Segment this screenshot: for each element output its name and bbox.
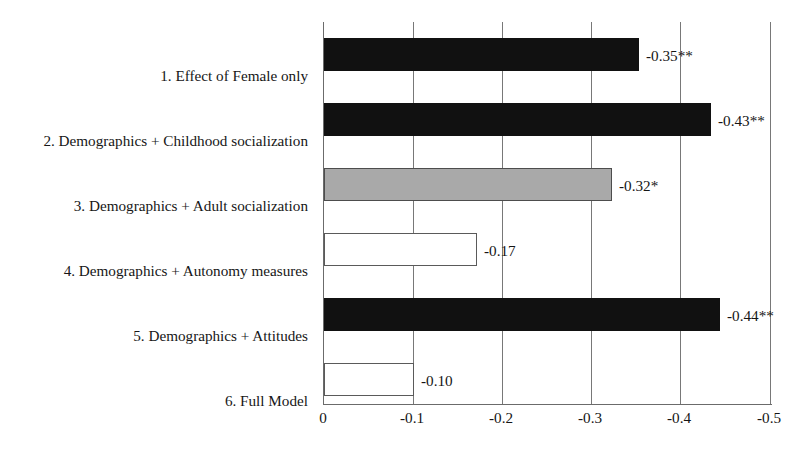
value-label-3: -0.32* (619, 178, 658, 193)
value-label-5: -0.44** (727, 308, 774, 323)
x-axis-tick-labels: 0 -0.1 -0.2 -0.3 -0.4 -0.5 (323, 410, 772, 436)
value-label-4: -0.17 (484, 243, 516, 258)
bar-1 (324, 38, 639, 71)
xtick-minus-0-4: -0.4 (667, 410, 691, 425)
bar-2 (324, 103, 711, 136)
category-label-3: 3. Demographics + Adult socialization (0, 198, 308, 213)
category-label-2: 2. Demographics + Childhood socializatio… (0, 133, 308, 148)
xtick-0: 0 (319, 410, 327, 425)
gridline-minus-0-1 (413, 22, 414, 404)
category-label-5: 5. Demographics + Attitudes (0, 328, 308, 343)
bar-3 (324, 168, 612, 201)
category-axis-labels: 1. Effect of Female only 2. Demographics… (0, 22, 318, 405)
bar-chart: 1. Effect of Female only 2. Demographics… (0, 0, 804, 463)
value-label-1: -0.35** (646, 48, 693, 63)
value-label-2: -0.43** (718, 113, 765, 128)
bar-6 (324, 363, 414, 396)
xtick-minus-0-5: -0.5 (757, 410, 781, 425)
value-label-6: -0.10 (421, 373, 453, 388)
category-label-4: 4. Demographics + Autonomy measures (0, 263, 308, 278)
gridline-minus-0-2 (502, 22, 503, 404)
xtick-minus-0-3: -0.3 (578, 410, 602, 425)
category-label-6: 6. Full Model (0, 393, 308, 408)
xtick-minus-0-2: -0.2 (489, 410, 513, 425)
xtick-minus-0-1: -0.1 (400, 410, 424, 425)
bar-4 (324, 233, 477, 266)
gridline-minus-0-4 (680, 22, 681, 404)
gridline-minus-0-3 (591, 22, 592, 404)
category-label-1: 1. Effect of Female only (0, 68, 308, 83)
bar-5 (324, 298, 720, 331)
gridline-minus-0-5 (770, 22, 771, 404)
plot-area: -0.35** -0.43** -0.32* -0.17 -0.44** -0.… (323, 22, 772, 405)
